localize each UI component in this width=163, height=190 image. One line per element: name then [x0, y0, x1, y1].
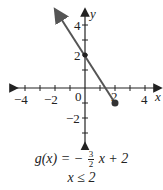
origin-label: 0: [75, 89, 82, 104]
x-label-4: 4: [141, 92, 148, 107]
y-label-neg2: −2: [66, 111, 80, 126]
domain-condition: x ≤ 2: [0, 170, 163, 186]
equation-lhs: g(x) = −: [35, 151, 83, 166]
equation-fraction: 3 2: [88, 150, 95, 169]
point-endpoint-closed: [112, 100, 119, 107]
x-label-neg2: −2: [44, 92, 58, 107]
x-label-neg4: −4: [14, 92, 28, 107]
y-axis-label: y: [88, 6, 96, 21]
equation-rhs: x + 2: [99, 151, 129, 166]
point-y-intercept: [83, 53, 88, 58]
fraction-denominator: 2: [88, 160, 95, 169]
graph: −4 −2 0 2 4 x 4 2 −2 y: [0, 0, 163, 150]
function-line: [58, 14, 115, 103]
x-axis-label: x: [154, 89, 161, 104]
y-label-2: 2: [74, 48, 81, 63]
function-equation: g(x) = − 3 2 x + 2: [0, 150, 163, 169]
y-label-4: 4: [74, 18, 81, 33]
